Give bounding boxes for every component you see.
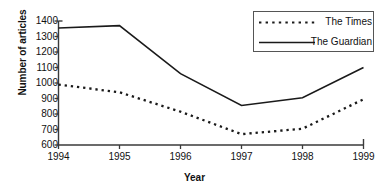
legend-label-the-times: The Times: [325, 16, 372, 28]
x-axis-tick-label: 1998: [280, 152, 326, 162]
legend-item-the-times: The Times: [254, 12, 375, 32]
x-axis-tick-label: 1995: [97, 152, 143, 162]
line-chart: Number of articles 600700800900100011001…: [0, 0, 389, 193]
x-axis-tick-label: 1997: [219, 152, 265, 162]
x-axis-title: Year: [0, 172, 389, 183]
legend-swatch-solid-icon: [259, 41, 315, 44]
legend: The Times The Guardian: [253, 11, 374, 52]
x-axis-tick-label: 1996: [158, 152, 204, 162]
x-axis-tick-label: 1994: [36, 152, 82, 162]
legend-swatch-dotted-icon: [259, 21, 315, 24]
series-line-the-times: [59, 85, 364, 135]
x-axis-tick-label: 1999: [341, 152, 387, 162]
legend-label-the-guardian: The Guardian: [311, 36, 372, 48]
legend-item-the-guardian: The Guardian: [254, 32, 375, 52]
